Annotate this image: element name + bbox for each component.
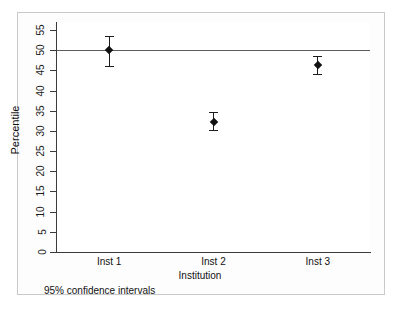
y-tick-mark (50, 232, 56, 233)
y-axis-title: Percentile (9, 90, 21, 170)
y-tick-mark (50, 91, 56, 92)
x-axis-title: Institution (0, 270, 400, 281)
y-tick-label: 40 (0, 86, 46, 96)
y-tick-label: 5 (0, 227, 46, 237)
y-tick-mark (50, 30, 56, 31)
y-tick-mark (50, 50, 56, 51)
error-bar-cap-upper (105, 36, 114, 37)
reference-line (57, 50, 370, 51)
chart-footnote: 95% confidence intervals (44, 285, 155, 296)
y-tick-label: 0 (0, 247, 46, 257)
error-bar-cap-upper (313, 56, 322, 57)
y-tick-label: 15 (0, 186, 46, 196)
y-tick-label: 20 (0, 166, 46, 176)
plot-area (57, 22, 370, 252)
error-bar-cap-lower (209, 130, 218, 131)
y-tick-mark (50, 191, 56, 192)
x-tick-label: Inst 2 (174, 256, 254, 267)
y-tick-label: 35 (0, 106, 46, 116)
y-tick-mark (50, 131, 56, 132)
chart-figure: 0510152025303540455055 Percentile Inst 1… (0, 0, 400, 309)
x-tick-label: Inst 1 (69, 256, 149, 267)
y-tick-mark (50, 171, 56, 172)
y-tick-label: 10 (0, 207, 46, 217)
y-tick-label: 25 (0, 146, 46, 156)
y-tick-mark (50, 70, 56, 71)
y-tick-mark (50, 212, 56, 213)
y-tick-mark (50, 111, 56, 112)
y-tick-mark (50, 151, 56, 152)
y-tick-label: 45 (0, 65, 46, 75)
y-axis-line (56, 22, 57, 253)
x-tick-label: Inst 3 (278, 256, 358, 267)
x-axis-line (56, 252, 371, 253)
y-tick-label: 30 (0, 126, 46, 136)
y-tick-mark (50, 252, 56, 253)
y-tick-label: 55 (0, 25, 46, 35)
y-tick-label: 50 (0, 45, 46, 55)
error-bar-cap-lower (313, 74, 322, 75)
error-bar-cap-lower (105, 66, 114, 67)
error-bar-cap-upper (209, 112, 218, 113)
